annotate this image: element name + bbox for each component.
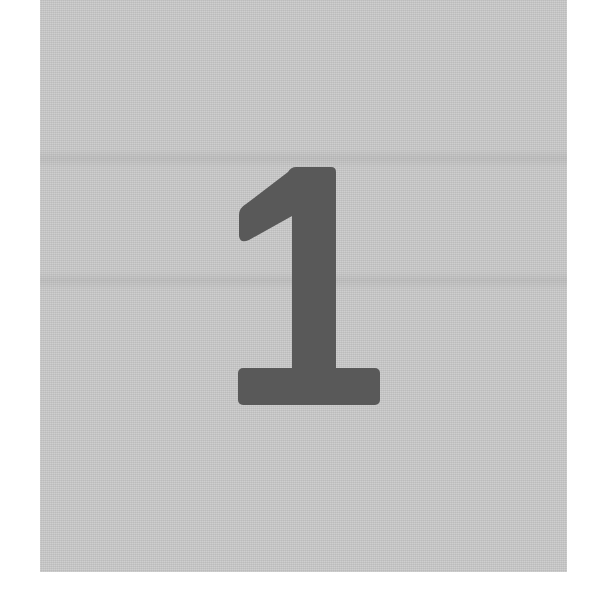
numeral-one-glyph bbox=[0, 0, 612, 602]
numeral-one-base bbox=[238, 368, 380, 405]
numeral-one-stem bbox=[239, 167, 336, 372]
